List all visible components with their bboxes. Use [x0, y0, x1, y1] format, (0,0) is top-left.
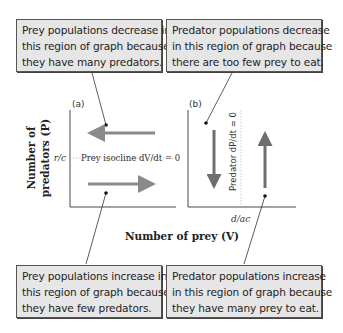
panel-a-label: (a) [72, 99, 85, 109]
panel-b: (b) Predator dP/dt = 0 d/ac [188, 99, 296, 224]
axis-titles: Number of predators (P) Number of prey (… [25, 119, 239, 242]
isocline-diagram: (a) Prey isocline dV/dt = 0 r/c (b) Pred… [0, 0, 343, 333]
predator-isocline-label: Predator dP/dt = 0 [228, 112, 238, 191]
y-axis-title-line2: predators (P) [39, 119, 51, 197]
panel-a: (a) Prey isocline dV/dt = 0 r/c [54, 99, 181, 207]
y-tick-rc: r/c [54, 153, 66, 163]
x-tick-dac: d/ac [231, 214, 250, 224]
panel-b-label: (b) [189, 99, 202, 109]
x-axis-title: Number of prey (V) [125, 230, 239, 242]
y-axis-title-line1: Number of [25, 125, 37, 190]
prey-isocline-label: Prey isocline dV/dt = 0 [81, 153, 180, 163]
